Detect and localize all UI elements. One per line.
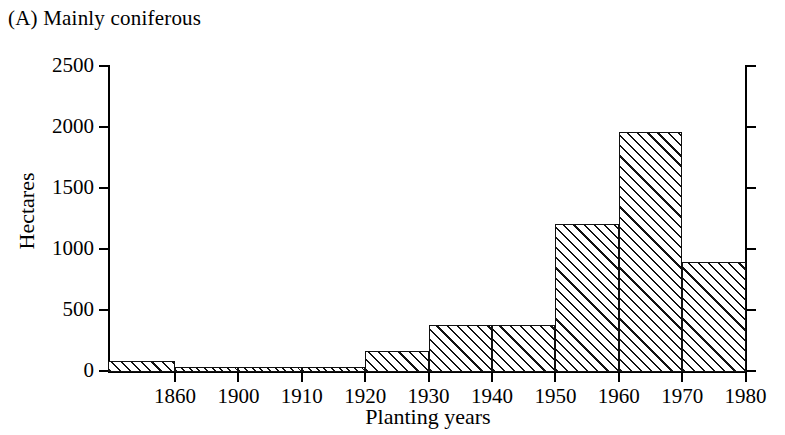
- panel-title: (A) Mainly coniferous: [8, 6, 201, 31]
- x-tick-1970: [681, 371, 683, 382]
- y-tick-500: [99, 309, 110, 311]
- x-tick-1960: [618, 371, 620, 382]
- y-tick-1000: [99, 248, 110, 250]
- plot-area: 05001000150020002500 1860190019101920193…: [108, 66, 747, 372]
- y-tick-label-2500: 2500: [20, 55, 94, 76]
- y-axis-line-left: [108, 66, 110, 373]
- x-tick-1980: [745, 371, 747, 382]
- y-tick-2500: [99, 65, 110, 67]
- x-tick-1860: [174, 371, 176, 382]
- x-tick-1930: [428, 371, 430, 382]
- bar-1950-1960: [555, 224, 618, 372]
- x-tick-1920: [364, 371, 366, 382]
- y-tick-label-1000: 1000: [20, 238, 94, 259]
- bar-1970-1980: [682, 262, 745, 372]
- y-tick-right-500: [745, 309, 756, 311]
- y-tick-right-1500: [745, 187, 756, 189]
- x-tick-1940: [491, 371, 493, 382]
- y-tick-right-0: [745, 370, 756, 372]
- y-tick-label-2000: 2000: [20, 116, 94, 137]
- bar-pre-1860: [108, 361, 175, 372]
- y-tick-right-2000: [745, 126, 756, 128]
- x-tick-label-1980: 1980: [706, 386, 785, 407]
- bar-1860-1900: [175, 367, 238, 372]
- bar-1930-1940: [429, 325, 492, 372]
- bar-1940-1950: [492, 325, 555, 372]
- bar-1920-1930: [365, 351, 428, 372]
- x-tick-1910: [301, 371, 303, 382]
- y-tick-label-500: 500: [20, 299, 94, 320]
- y-tick-right-1000: [745, 248, 756, 250]
- y-tick-2000: [99, 126, 110, 128]
- x-tick-1900: [237, 371, 239, 382]
- y-tick-right-2500: [745, 65, 756, 67]
- bar-1910-1920: [302, 367, 365, 372]
- x-tick-1950: [554, 371, 556, 382]
- y-tick-label-0: 0: [20, 360, 94, 381]
- y-tick-label-1500: 1500: [20, 177, 94, 198]
- bar-1900-1910: [238, 367, 301, 372]
- y-tick-1500: [99, 187, 110, 189]
- chart-figure: (A) Mainly coniferous Hectares Planting …: [0, 0, 785, 435]
- bar-1960-1970: [619, 132, 682, 372]
